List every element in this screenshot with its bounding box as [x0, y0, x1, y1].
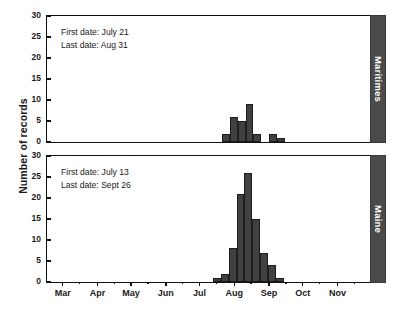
panel-label-maine: Maine — [373, 205, 384, 233]
bar — [260, 253, 268, 282]
panel-maine: First date: July 13 Last date: Sept 26 0… — [46, 155, 370, 283]
bar — [229, 248, 237, 282]
bar — [221, 274, 229, 282]
bar — [237, 194, 245, 282]
annotation-maritimes: First date: July 21 Last date: Aug 31 — [61, 26, 129, 52]
panel-label-strip-maine: Maine — [370, 155, 386, 283]
bar — [222, 134, 230, 142]
bar — [246, 104, 254, 142]
histogram-figure: Number of records First date: July 21 La… — [0, 0, 398, 314]
y-axis-title: Number of records — [17, 76, 29, 216]
annotation-maine: First date: July 13 Last date: Sept 26 — [61, 166, 131, 192]
panel-maritimes: First date: July 21 Last date: Aug 31 0 … — [46, 15, 370, 143]
bar — [277, 138, 285, 142]
annotation-last-date: Last date: Sept 26 — [61, 179, 131, 192]
annotation-first-date: First date: July 21 — [61, 26, 129, 39]
bar — [269, 134, 277, 142]
bar — [244, 173, 252, 282]
bar — [268, 265, 276, 282]
annotation-last-date: Last date: Aug 31 — [61, 39, 129, 52]
panel-label-strip-maritimes: Maritimes — [370, 15, 386, 143]
bar — [252, 219, 260, 282]
bar — [238, 121, 246, 142]
bar — [230, 117, 238, 142]
annotation-first-date: First date: July 13 — [61, 166, 131, 179]
bar — [276, 278, 284, 282]
plot-area-maine: First date: July 13 Last date: Sept 26 0… — [46, 155, 370, 283]
plot-area-maritimes: First date: July 21 Last date: Aug 31 0 … — [46, 15, 370, 143]
bar — [253, 134, 261, 142]
panel-label-maritimes: Maritimes — [373, 56, 384, 102]
x-tick-label-nov: Nov — [315, 288, 359, 298]
